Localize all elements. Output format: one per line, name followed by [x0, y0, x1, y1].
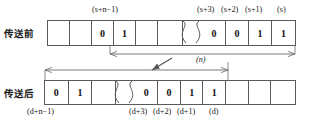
annotation-overlay — [0, 0, 311, 124]
span-arrow-destination — [45, 62, 228, 80]
span-label-n: (n) — [194, 55, 208, 64]
transfer-direction-arrow — [152, 58, 172, 70]
figure-canvas: (s+n−1) (s+3) (s+2) (s+1) (s) 传送前 010011… — [0, 0, 311, 124]
span-arrow-n — [110, 46, 295, 54]
